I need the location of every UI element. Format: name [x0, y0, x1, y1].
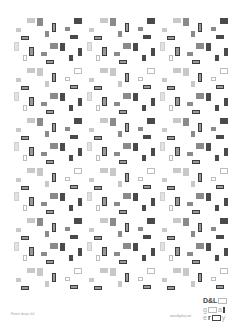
pattern-rectangle — [169, 105, 173, 111]
pattern-rectangle — [69, 255, 73, 261]
pattern-rectangle — [118, 231, 122, 237]
pattern-rectangle — [52, 223, 56, 232]
pattern-rectangle — [21, 136, 29, 140]
pattern-rectangle — [175, 197, 180, 206]
pattern-rectangle — [198, 223, 202, 232]
pattern-rectangle — [118, 131, 122, 137]
pattern-rectangle — [215, 205, 219, 211]
pattern-rectangle — [216, 235, 224, 239]
pattern-rectangle — [123, 43, 131, 49]
pattern-rectangle — [21, 86, 29, 90]
pattern-rectangle — [52, 273, 56, 282]
pattern-rectangle — [138, 277, 143, 281]
pattern-rectangle — [94, 236, 102, 240]
pattern-rectangle — [50, 143, 58, 149]
pattern-rectangle — [216, 285, 224, 289]
pattern-rectangle — [187, 52, 193, 56]
pattern-rectangle — [94, 186, 102, 190]
pattern-rectangle — [216, 85, 224, 89]
pattern-rectangle — [215, 255, 219, 261]
pattern-rectangle — [118, 281, 122, 287]
pattern-rectangle — [151, 198, 155, 206]
pattern-rectangle — [114, 152, 120, 156]
pattern-rectangle — [198, 73, 202, 82]
pattern-rectangle — [41, 102, 47, 106]
pattern-rectangle — [119, 160, 127, 164]
pattern-rectangle — [16, 128, 21, 132]
pattern-rectangle — [65, 227, 70, 231]
logo-rect-icon — [212, 315, 221, 321]
pattern-rectangle — [142, 55, 146, 61]
pattern-rectangle — [45, 131, 49, 137]
pattern-rectangle — [138, 27, 143, 31]
pattern-rectangle — [110, 68, 116, 76]
pattern-rectangle — [94, 286, 102, 290]
pattern-rectangle — [119, 60, 127, 64]
pattern-rectangle — [100, 18, 108, 23]
pattern-rectangle — [70, 235, 78, 239]
pattern-rectangle — [114, 202, 120, 206]
logo-line-3: e r y — [203, 314, 235, 323]
pattern-rectangle — [183, 18, 189, 26]
pattern-rectangle — [78, 148, 82, 156]
pattern-rectangle — [100, 68, 108, 73]
pattern-rectangle — [162, 278, 167, 282]
pattern-rectangle — [198, 23, 202, 32]
pattern-rectangle — [133, 193, 138, 201]
pattern-rectangle — [211, 27, 216, 31]
pattern-rectangle — [192, 210, 200, 214]
pattern-rectangle — [215, 105, 219, 111]
pattern-rectangle — [173, 168, 181, 173]
pattern-rectangle — [52, 23, 56, 32]
pattern-rectangle — [147, 68, 155, 74]
pattern-rectangle — [110, 218, 116, 226]
pattern-rectangle — [215, 155, 219, 161]
pattern-rectangle — [183, 68, 189, 76]
pattern-rectangle — [102, 247, 107, 256]
pattern-rectangle — [138, 127, 143, 131]
pattern-rectangle — [100, 218, 108, 223]
pattern-rectangle — [50, 43, 58, 49]
pattern-rectangle — [160, 192, 165, 201]
pattern-rectangle — [142, 105, 146, 111]
logo-text-y: y — [222, 314, 226, 323]
pattern-rectangle — [169, 255, 173, 261]
pattern-rectangle — [45, 81, 49, 87]
pattern-rectangle — [89, 228, 94, 232]
pattern-rectangle — [224, 198, 228, 206]
pattern-rectangle — [125, 23, 129, 32]
pattern-rectangle — [14, 242, 19, 251]
pattern-rectangle — [14, 142, 19, 151]
pattern-rectangle — [74, 118, 82, 124]
pattern-rectangle — [46, 160, 54, 164]
pattern-rectangle — [70, 285, 78, 289]
logo-bar-icon — [223, 307, 225, 313]
pattern-rectangle — [169, 55, 173, 61]
pattern-rectangle — [192, 160, 200, 164]
pattern-rectangle — [102, 147, 107, 156]
pattern-rectangle — [87, 242, 92, 251]
pattern-rectangle — [60, 43, 65, 51]
pattern-rectangle — [191, 231, 195, 237]
pattern-rectangle — [142, 205, 146, 211]
pattern-rectangle — [173, 18, 181, 23]
pattern-rectangle — [191, 131, 195, 137]
pattern-rectangle — [167, 236, 175, 240]
pattern-rectangle — [50, 243, 58, 249]
pattern-rectangle — [183, 118, 189, 126]
pattern-rectangle — [27, 18, 35, 23]
pattern-rectangle — [45, 31, 49, 37]
pattern-rectangle — [29, 197, 34, 206]
pattern-rectangle — [65, 277, 70, 281]
pattern-rectangle — [37, 218, 43, 226]
pattern-rectangle — [89, 278, 94, 282]
pattern-rectangle — [167, 186, 175, 190]
pattern-rectangle — [151, 48, 155, 56]
pattern-rectangle — [167, 286, 175, 290]
pattern-rectangle — [74, 268, 82, 274]
pattern-rectangle — [206, 143, 211, 151]
logo-text-r: r — [208, 314, 211, 323]
pattern-rectangle — [74, 68, 82, 74]
pattern-rectangle — [89, 78, 94, 82]
pattern-rectangle — [27, 168, 35, 173]
